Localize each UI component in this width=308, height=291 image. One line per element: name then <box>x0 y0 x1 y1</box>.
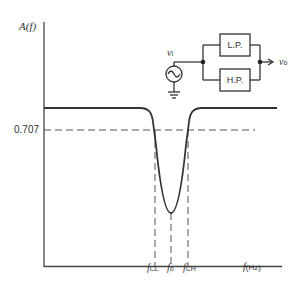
response-curve <box>44 108 277 213</box>
notch-filter-diagram <box>0 0 308 291</box>
input-voltage-label: vi <box>167 48 173 59</box>
fch-label: fCH <box>183 263 196 274</box>
fo-label: fo <box>167 263 174 274</box>
x-axis-label: f(Hz) <box>243 262 261 273</box>
low-pass-label: L.P. <box>221 40 249 50</box>
y-axis-label: A(f) <box>19 21 36 31</box>
fcl-label: fCL <box>147 263 159 274</box>
output-voltage-label: vo <box>279 57 287 68</box>
y-tick-0707: 0.707 <box>14 125 39 135</box>
output-node <box>258 60 263 65</box>
high-pass-label: H.P. <box>221 75 249 85</box>
circuit-schematic <box>166 34 273 98</box>
input-node <box>201 60 206 65</box>
